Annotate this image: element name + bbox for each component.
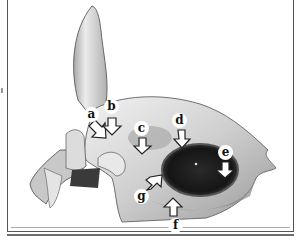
mid-block — [66, 130, 86, 170]
crest — [74, 6, 107, 118]
label-a: a — [84, 107, 99, 122]
label-f: f — [168, 218, 183, 233]
skull-illustration — [0, 0, 299, 240]
label-c: c — [134, 121, 149, 136]
orbit-highlight — [195, 163, 198, 166]
label-b: b — [104, 99, 119, 114]
dark-notch — [70, 168, 100, 188]
label-g: g — [134, 189, 149, 204]
label-d: d — [172, 113, 187, 128]
label-e: e — [218, 145, 233, 160]
